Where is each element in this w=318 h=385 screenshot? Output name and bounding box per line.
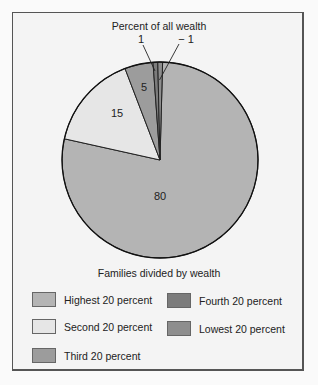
legend-item-lowest: Lowest 20 percent <box>167 321 285 336</box>
legend-label: Highest 20 percent <box>64 294 152 306</box>
legend-item-highest: Highest 20 percent <box>32 292 152 307</box>
legend-item-fourth: Fourth 20 percent <box>167 293 282 308</box>
legend-item-second: Second 20 percent <box>32 319 152 334</box>
label-fourth: 1 <box>138 33 144 45</box>
label-second: 15 <box>111 107 123 119</box>
legend-title: Families divided by wealth <box>0 267 318 279</box>
legend-item-third: Third 20 percent <box>32 348 140 363</box>
legend-swatch <box>32 348 56 363</box>
legend-label: Lowest 20 percent <box>199 323 285 335</box>
label-third: 5 <box>141 81 147 93</box>
legend-swatch <box>32 319 56 334</box>
legend-swatch <box>167 321 191 336</box>
legend-swatch <box>167 293 191 308</box>
label-highest: 80 <box>154 190 166 202</box>
label-lowest: − 1 <box>178 33 194 45</box>
legend-swatch <box>32 292 56 307</box>
legend-label: Second 20 percent <box>64 321 152 333</box>
legend-label: Third 20 percent <box>64 350 140 362</box>
legend-label: Fourth 20 percent <box>199 295 282 307</box>
